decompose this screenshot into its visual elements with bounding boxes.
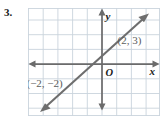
problem-number-label: 3. [4, 6, 12, 18]
origin-label: O [106, 67, 114, 78]
coordinate-grid-plot: y x O (2, 3) (−2, −2) [28, 8, 160, 116]
y-axis-label: y [104, 10, 111, 22]
point-label-2-3: (2, 3) [118, 34, 142, 47]
x-axis-label: x [149, 65, 156, 77]
graph-svg-canvas: y x O (2, 3) (−2, −2) [28, 8, 160, 116]
graph-figure: 3. [0, 0, 166, 123]
point-label-neg2-neg2: (−2, −2) [28, 77, 63, 90]
